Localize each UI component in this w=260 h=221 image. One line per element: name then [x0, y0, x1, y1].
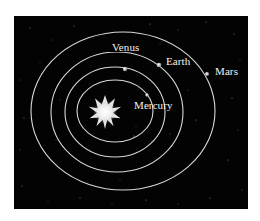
planets	[123, 63, 209, 97]
planet-mars	[205, 72, 209, 76]
planet-earth	[157, 63, 162, 68]
planet-mercury	[145, 93, 149, 97]
sun-star-icon	[89, 95, 121, 129]
planet-venus	[123, 67, 127, 71]
label-earth: Earth	[166, 56, 190, 67]
label-venus: Venus	[112, 42, 139, 53]
solar-system-diagram	[0, 0, 260, 221]
label-mars: Mars	[215, 66, 238, 77]
label-mercury: Mercury	[134, 100, 173, 111]
